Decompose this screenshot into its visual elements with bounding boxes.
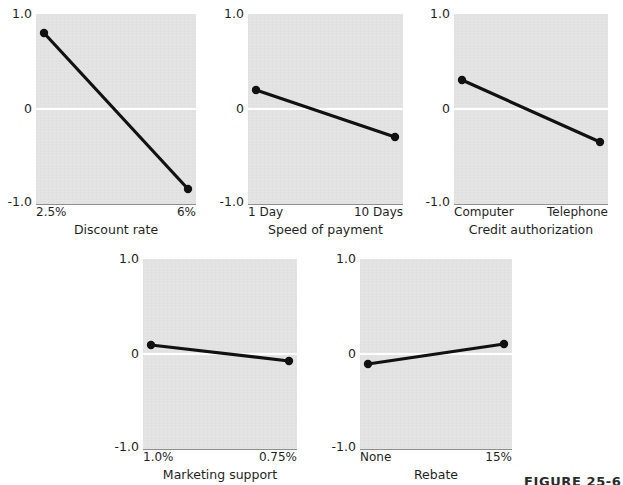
ytick-zero: 0 xyxy=(101,348,139,361)
panel-marketing-support xyxy=(143,259,297,449)
x-axis-title: Speed of payment xyxy=(248,224,403,237)
panel-discount-rate xyxy=(36,14,196,204)
series-line xyxy=(360,259,512,449)
main-effects-figure: 1.0 0 -1.0 2.5% 6% Discount rate 1.0 0 -… xyxy=(0,0,623,485)
series-line xyxy=(143,259,297,449)
series-line xyxy=(454,14,608,204)
panel-rebate xyxy=(360,259,512,449)
ytick-bottom: -1.0 xyxy=(412,196,450,209)
xtick-right: 15% xyxy=(442,451,512,463)
ytick-bottom: -1.0 xyxy=(101,441,139,454)
panel-credit-authorization xyxy=(454,14,608,204)
xtick-left: 1 Day xyxy=(248,206,318,218)
ytick-top: 1.0 xyxy=(412,8,450,21)
xtick-right: Telephone xyxy=(528,206,608,218)
xtick-right: 6% xyxy=(126,206,196,218)
ytick-zero: 0 xyxy=(206,103,244,116)
ytick-top: 1.0 xyxy=(206,8,244,21)
xtick-right: 10 Days xyxy=(333,206,403,218)
ytick-bottom: -1.0 xyxy=(206,196,244,209)
xtick-left: 2.5% xyxy=(36,206,106,218)
x-axis-title: Credit authorization xyxy=(454,224,608,237)
x-axis-title: Rebate xyxy=(360,469,512,482)
ytick-bottom: -1.0 xyxy=(0,196,32,209)
ytick-zero: 0 xyxy=(0,103,32,116)
ytick-zero: 0 xyxy=(412,103,450,116)
x-axis-title: Marketing support xyxy=(143,469,297,482)
xtick-left: Computer xyxy=(454,206,534,218)
series-line xyxy=(248,14,403,204)
ytick-zero: 0 xyxy=(318,348,356,361)
ytick-bottom: -1.0 xyxy=(318,441,356,454)
series-line xyxy=(36,14,196,204)
x-axis-title: Discount rate xyxy=(36,224,196,237)
xtick-left: 1.0% xyxy=(143,451,213,463)
panel-speed-of-payment xyxy=(248,14,403,204)
figure-caption: FIGURE 25-6 xyxy=(524,474,623,485)
ytick-top: 1.0 xyxy=(318,253,356,266)
ytick-top: 1.0 xyxy=(101,253,139,266)
xtick-left: None xyxy=(360,451,430,463)
xtick-right: 0.75% xyxy=(227,451,297,463)
ytick-top: 1.0 xyxy=(0,8,32,21)
